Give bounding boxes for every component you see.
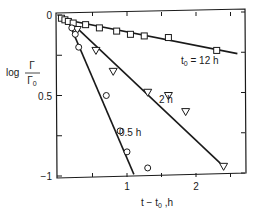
square-marker: [127, 31, 133, 37]
triangle-marker: [92, 47, 100, 54]
circle-marker: [76, 44, 82, 50]
square-marker: [83, 22, 89, 28]
triangle-marker: [220, 163, 228, 170]
triangle-marker: [109, 68, 117, 75]
square-marker: [214, 47, 220, 53]
square-marker: [96, 25, 102, 31]
annotation-12h: t0 = 12 h: [181, 55, 219, 67]
axis-labels: 1200.5−1: [38, 10, 199, 192]
y-axis-label-log: log: [6, 67, 19, 78]
y-axis-label-numerator: Γ: [29, 60, 35, 71]
circle-marker: [69, 25, 75, 31]
circle-marker: [124, 149, 130, 155]
data-points: [58, 15, 227, 171]
x-tick-label: 2: [193, 181, 199, 192]
circle-marker: [72, 31, 78, 37]
y-tick-label: 0.5: [38, 91, 52, 102]
x-axis-label: t − t0 ,h: [141, 197, 173, 209]
chart: 1200.5−1 log Γ Γ0 t − t0 ,h t0 = 12 h 2 …: [0, 0, 256, 212]
circle-marker: [145, 165, 151, 171]
square-marker: [114, 28, 120, 34]
circle-marker: [103, 93, 109, 99]
square-marker: [165, 35, 171, 41]
y-tick-label: 0: [46, 10, 52, 21]
annotation-0.5h: 0.5 h: [119, 127, 141, 138]
triangle-marker: [182, 109, 190, 116]
annotation-2h: 2 h: [159, 94, 173, 105]
y-axis-label-denominator: Γ0: [27, 75, 37, 87]
y-tick-label: −1: [41, 171, 53, 182]
x-tick-label: 1: [124, 181, 130, 192]
square-marker: [141, 33, 147, 39]
